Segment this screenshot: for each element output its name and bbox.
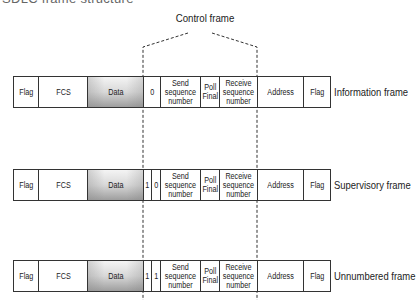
flag-start-cell: Flag bbox=[14, 261, 39, 291]
receive-sequence-cell: Receive sequence number bbox=[220, 170, 258, 200]
unnumbered-frame-row: Flag FCS Data 1 1 Send sequence number P… bbox=[13, 260, 331, 292]
data-cell: Data bbox=[88, 170, 144, 200]
flag-end-cell: Flag bbox=[304, 77, 330, 107]
information-frame-label: Information frame bbox=[334, 86, 408, 98]
unnumbered-frame-label: Unnumbered frame bbox=[334, 270, 415, 282]
data-cell: Data bbox=[88, 77, 144, 107]
flag-end-cell: Flag bbox=[304, 170, 330, 200]
send-sequence-cell: Send sequence number bbox=[161, 261, 201, 291]
control-bit-cell: 0 bbox=[144, 77, 161, 107]
send-sequence-cell: Send sequence number bbox=[161, 77, 201, 107]
send-sequence-cell: Send sequence number bbox=[161, 170, 201, 200]
fcs-cell: FCS bbox=[39, 77, 88, 107]
fcs-cell: FCS bbox=[39, 170, 88, 200]
fcs-cell: FCS bbox=[39, 261, 88, 291]
control-bit-cell: 1 bbox=[152, 261, 161, 291]
data-cell: Data bbox=[88, 261, 144, 291]
control-frame-label: Control frame bbox=[174, 12, 236, 24]
control-bit-cell: 1 bbox=[144, 261, 152, 291]
receive-sequence-cell: Receive sequence number bbox=[220, 77, 258, 107]
poll-final-cell: Poll Final bbox=[201, 261, 220, 291]
flag-start-cell: Flag bbox=[14, 170, 39, 200]
address-cell: Address bbox=[258, 261, 304, 291]
flag-end-cell: Flag bbox=[304, 261, 330, 291]
control-bit-cell: 0 bbox=[152, 170, 161, 200]
supervisory-frame-label: Supervisory frame bbox=[334, 179, 411, 191]
flag-start-cell: Flag bbox=[14, 77, 39, 107]
diagram-title: SDLC frame structure bbox=[2, 0, 134, 6]
control-bit-cell: 1 bbox=[144, 170, 152, 200]
address-cell: Address bbox=[258, 170, 304, 200]
poll-final-cell: Poll Final bbox=[201, 77, 220, 107]
poll-final-cell: Poll Final bbox=[201, 170, 220, 200]
information-frame-row: Flag FCS Data 0 Send sequence number Pol… bbox=[13, 76, 331, 108]
receive-sequence-cell: Receive sequence number bbox=[220, 261, 258, 291]
address-cell: Address bbox=[258, 77, 304, 107]
supervisory-frame-row: Flag FCS Data 1 0 Send sequence number P… bbox=[13, 169, 331, 201]
